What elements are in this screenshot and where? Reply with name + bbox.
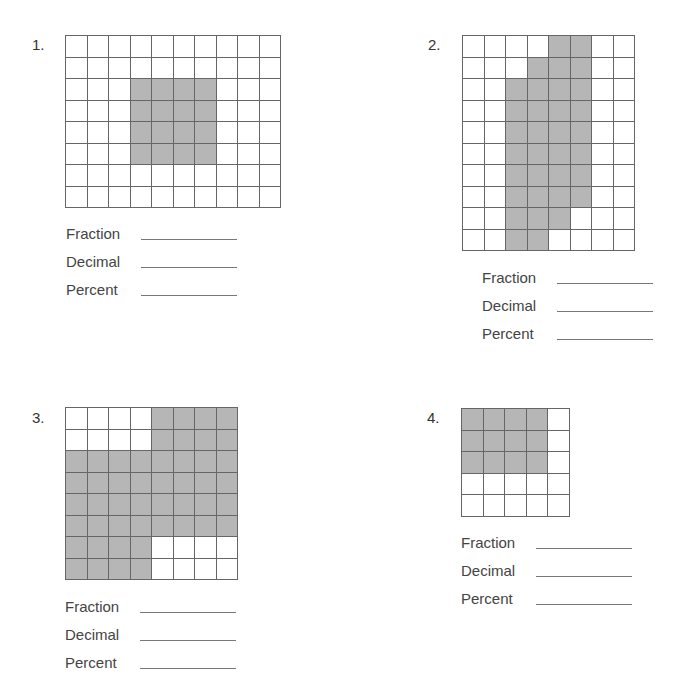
fraction-answer-blank[interactable] [557, 282, 653, 284]
grid-cell [613, 57, 635, 79]
grid-cell [151, 164, 173, 186]
grid-cell [65, 57, 87, 79]
grid-cell [484, 164, 506, 186]
shaded-cell [194, 493, 216, 515]
grid-cell [461, 494, 483, 516]
problem-number: 3. [32, 409, 45, 426]
shaded-cell [194, 78, 216, 100]
grid-cell [216, 164, 238, 186]
shaded-cell [216, 429, 238, 451]
shaded-cell [108, 450, 130, 472]
shaded-cell [570, 121, 592, 143]
fraction-answer-blank[interactable] [536, 547, 632, 549]
grid-cell [613, 100, 635, 122]
shaded-cell [548, 78, 570, 100]
shaded-cell [151, 450, 173, 472]
grid-cell [483, 494, 505, 516]
shaded-cell [194, 121, 216, 143]
grid-cell [484, 78, 506, 100]
grid-cell [87, 78, 109, 100]
shaded-cell [65, 558, 87, 580]
percent-answer-blank[interactable] [141, 294, 237, 296]
grid-cell [194, 35, 216, 57]
grid-cell [173, 186, 195, 208]
shaded-cell [216, 450, 238, 472]
shaded-cell [526, 408, 548, 430]
shaded-cell [548, 186, 570, 208]
fraction-answer-row: Fraction [461, 535, 632, 551]
grid-cell [216, 186, 238, 208]
grid-cell [216, 100, 238, 122]
decimal-answer-blank[interactable] [557, 310, 653, 312]
shaded-cell [130, 558, 152, 580]
hundredths-grid [462, 35, 635, 251]
grid-cell [613, 207, 635, 229]
grid-cell [484, 207, 506, 229]
problem-number: 4. [427, 409, 440, 426]
percent-answer-blank[interactable] [140, 667, 236, 669]
grid-cell [484, 57, 506, 79]
grid-cell [65, 186, 87, 208]
percent-answer-blank[interactable] [557, 338, 653, 340]
grid-cell [613, 121, 635, 143]
shaded-cell [216, 472, 238, 494]
shaded-cell [505, 207, 527, 229]
shaded-cell [130, 100, 152, 122]
shaded-cell [505, 121, 527, 143]
fraction-answer-blank[interactable] [141, 238, 237, 240]
shaded-cell [151, 407, 173, 429]
grid-cell [484, 100, 506, 122]
shaded-cell [173, 450, 195, 472]
grid-cell [461, 473, 483, 495]
shaded-cell [173, 143, 195, 165]
shaded-cell [130, 472, 152, 494]
grid-cell [462, 35, 484, 57]
shaded-cell [548, 100, 570, 122]
grid-cell [130, 429, 152, 451]
shaded-cell [130, 515, 152, 537]
percent-label: Percent [482, 326, 557, 342]
grid-cell [87, 429, 109, 451]
shaded-cell [504, 451, 526, 473]
grid-cell [462, 78, 484, 100]
shaded-cell [130, 143, 152, 165]
decimal-answer-blank[interactable] [536, 575, 632, 577]
decimal-answer-blank[interactable] [140, 639, 236, 641]
grid-cell [108, 35, 130, 57]
shaded-cell [570, 57, 592, 79]
hundredths-grid [461, 408, 570, 517]
shaded-cell [65, 472, 87, 494]
grid-cell [87, 121, 109, 143]
grid-cell [194, 164, 216, 186]
grid-cell [547, 494, 569, 516]
percent-label: Percent [66, 282, 141, 298]
grid-cell [591, 186, 613, 208]
grid-cell [547, 473, 569, 495]
grid-cell [462, 143, 484, 165]
grid-cell [130, 186, 152, 208]
shaded-cell [527, 100, 549, 122]
shaded-cell [151, 143, 173, 165]
shaded-cell [570, 186, 592, 208]
grid-cell [151, 57, 173, 79]
grid-cell [87, 57, 109, 79]
decimal-answer-blank[interactable] [141, 266, 237, 268]
percent-answer-blank[interactable] [536, 603, 632, 605]
fraction-answer-blank[interactable] [140, 611, 236, 613]
grid-cell [108, 121, 130, 143]
grid-cell [548, 229, 570, 251]
grid-cell [591, 35, 613, 57]
shaded-cell [194, 143, 216, 165]
fraction-label: Fraction [66, 226, 141, 242]
decimal-label: Decimal [66, 254, 141, 270]
percent-answer-row: Percent [66, 282, 237, 298]
shaded-cell [87, 493, 109, 515]
percent-answer-row: Percent [482, 326, 653, 342]
grid-cell [259, 164, 281, 186]
grid-cell [591, 207, 613, 229]
grid-cell [591, 57, 613, 79]
shaded-cell [194, 100, 216, 122]
grid-cell [87, 164, 109, 186]
grid-cell [237, 78, 259, 100]
shaded-cell [173, 78, 195, 100]
